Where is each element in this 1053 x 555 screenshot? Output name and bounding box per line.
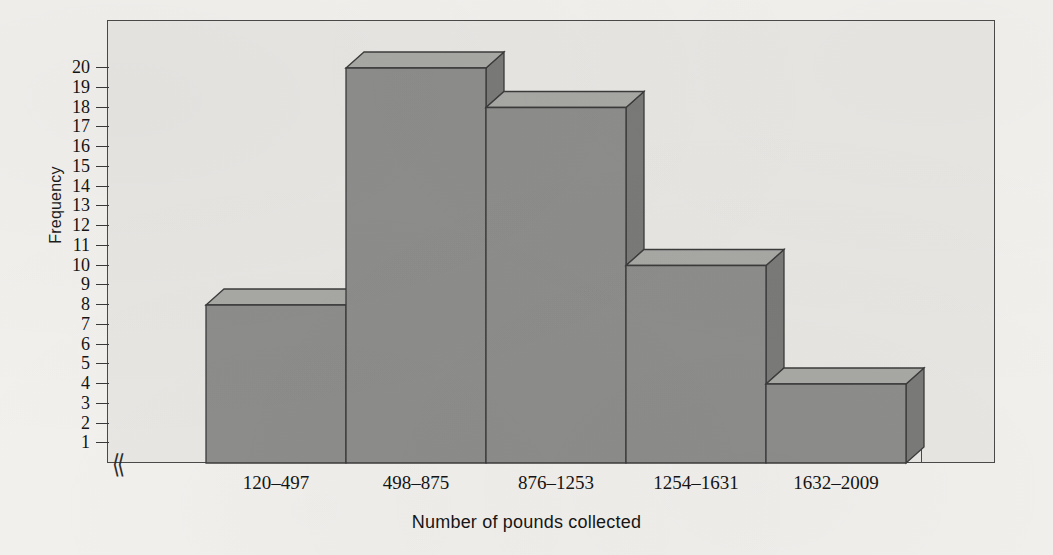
histogram-bar bbox=[206, 289, 364, 463]
bars-layer bbox=[0, 0, 1053, 555]
histogram-bar bbox=[346, 52, 504, 463]
histogram-figure: Frequency 123456789101112131415161718192… bbox=[0, 0, 1053, 555]
histogram-bar bbox=[766, 368, 924, 463]
histogram-bar bbox=[486, 92, 644, 464]
histogram-bar bbox=[626, 250, 784, 464]
